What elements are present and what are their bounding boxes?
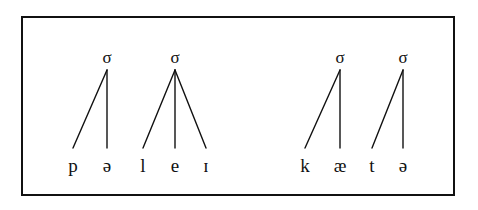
sigma-node-syllable-2: σ (170, 49, 179, 66)
segment-label-ə: ə (103, 156, 111, 175)
segment-label-e: e (171, 156, 179, 175)
diagram-frame (21, 16, 455, 196)
segment-label-l: l (140, 156, 145, 175)
sigma-node-syllable-4: σ (398, 49, 407, 66)
segment-label-ə: ə (399, 156, 407, 175)
sigma-node-syllable-3: σ (335, 49, 344, 66)
syllable-diagram: σpəσleɪσkæσtə (0, 0, 478, 210)
segment-label-t: t (369, 156, 374, 175)
sigma-node-syllable-1: σ (102, 49, 111, 66)
segment-label-p: p (68, 156, 78, 175)
segment-label-k: k (300, 156, 310, 175)
segment-label-ɪ: ɪ (203, 156, 208, 175)
segment-label-æ: æ (334, 156, 347, 175)
